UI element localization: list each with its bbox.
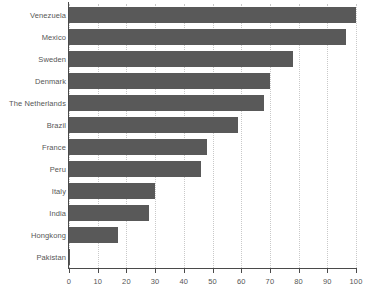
bar-row[interactable] — [69, 7, 356, 23]
category-label: The Netherlands — [9, 99, 66, 108]
category-label: Venezuela — [30, 11, 66, 20]
x-tick-label: 80 — [294, 277, 303, 286]
bar-row[interactable] — [69, 51, 356, 67]
bar-row[interactable] — [69, 205, 356, 221]
x-tick-label: 0 — [67, 277, 71, 286]
category-label: India — [49, 209, 66, 218]
x-tick-label: 90 — [323, 277, 332, 286]
bar[interactable] — [69, 29, 346, 45]
x-tick-label: 40 — [180, 277, 189, 286]
x-tick-label: 60 — [237, 277, 246, 286]
bar[interactable] — [69, 249, 70, 265]
bar[interactable] — [69, 117, 238, 133]
bar[interactable] — [69, 161, 201, 177]
bar-chart: 0102030405060708090100 VenezuelaMexicoSw… — [0, 0, 365, 304]
x-tick-mark — [98, 269, 99, 273]
category-label: Hongkong — [31, 231, 66, 240]
bar-row[interactable] — [69, 227, 356, 243]
x-tick-label: 70 — [266, 277, 275, 286]
bar-row[interactable] — [69, 29, 356, 45]
bar[interactable] — [69, 73, 270, 89]
category-label: Mexico — [42, 33, 66, 42]
bar-row[interactable] — [69, 117, 356, 133]
bar-row[interactable] — [69, 139, 356, 155]
bar-row[interactable] — [69, 249, 356, 265]
category-label: Peru — [50, 165, 66, 174]
x-tick-mark — [69, 269, 70, 273]
bar[interactable] — [69, 227, 118, 243]
bar[interactable] — [69, 205, 149, 221]
bar[interactable] — [69, 139, 207, 155]
category-label: Italy — [52, 187, 66, 196]
category-label: Denmark — [35, 77, 66, 86]
x-tick-mark — [270, 269, 271, 273]
x-tick-label: 10 — [93, 277, 102, 286]
category-label: Brazil — [47, 121, 66, 130]
x-tick-mark — [184, 269, 185, 273]
gridline — [356, 4, 358, 268]
x-tick-label: 50 — [208, 277, 217, 286]
x-tick-mark — [299, 269, 300, 273]
x-tick-mark — [126, 269, 127, 273]
x-tick-mark — [241, 269, 242, 273]
bar-row[interactable] — [69, 73, 356, 89]
category-label: Sweden — [38, 55, 66, 64]
x-tick-mark — [356, 269, 357, 273]
x-tick-mark — [155, 269, 156, 273]
x-tick-mark — [327, 269, 328, 273]
bar-row[interactable] — [69, 95, 356, 111]
x-tick-label: 20 — [122, 277, 131, 286]
plot-area — [69, 4, 356, 268]
bar[interactable] — [69, 51, 293, 67]
bar-row[interactable] — [69, 161, 356, 177]
bar[interactable] — [69, 183, 155, 199]
bar-row[interactable] — [69, 183, 356, 199]
x-tick-mark — [213, 269, 214, 273]
bar[interactable] — [69, 7, 356, 23]
x-tick-label: 30 — [151, 277, 160, 286]
category-label: France — [42, 143, 66, 152]
category-label: Pakistan — [36, 253, 66, 262]
bar[interactable] — [69, 95, 264, 111]
bar-series — [69, 4, 356, 268]
x-tick-label: 100 — [350, 277, 363, 286]
